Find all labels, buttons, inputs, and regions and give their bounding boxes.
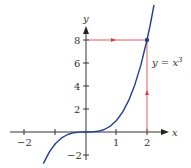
arrow-up-icon bbox=[145, 90, 149, 95]
x-tick-label-1: 1 bbox=[113, 137, 119, 148]
guide-lines bbox=[86, 38, 149, 132]
curve-label-base: y = x bbox=[151, 57, 178, 68]
curve-label: y = x3 bbox=[151, 56, 183, 68]
y-tick-label-4: 4 bbox=[74, 81, 80, 92]
arrow-right-icon bbox=[111, 38, 116, 42]
x-tick-label-2: 2 bbox=[144, 137, 150, 148]
cubic-function-plot: y x −2 1 2 8 6 4 2 −2 y = x3 bbox=[0, 0, 191, 168]
y-tick-label-6: 6 bbox=[74, 58, 80, 69]
intersection-point bbox=[145, 38, 149, 42]
y-tick-label-2: 2 bbox=[74, 104, 80, 115]
curve-y-equals-x-cubed bbox=[43, 5, 154, 164]
y-tick-label-8: 8 bbox=[74, 35, 80, 46]
y-axis-arrow-icon bbox=[83, 26, 89, 34]
x-axis-label: x bbox=[172, 127, 178, 138]
y-axis-label: y bbox=[82, 13, 89, 24]
curve-label-exponent: 3 bbox=[178, 56, 183, 64]
x-tick-label-minus-2: −2 bbox=[17, 137, 32, 148]
x-axis-arrow-icon bbox=[161, 129, 169, 135]
chart-figure: y x −2 1 2 8 6 4 2 −2 y = x3 bbox=[0, 0, 191, 168]
y-tick-label-minus-2: −2 bbox=[67, 150, 82, 161]
